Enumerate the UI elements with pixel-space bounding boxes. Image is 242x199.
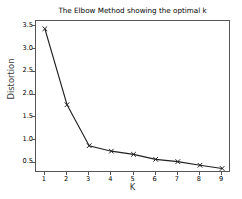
y-tick-mark (32, 162, 35, 163)
x-tick-mark (110, 172, 111, 175)
y-tick-mark (32, 48, 35, 49)
x-axis-label: K (35, 182, 230, 192)
x-tick-mark (88, 172, 89, 175)
y-tick-mark (32, 71, 35, 72)
y-tick-mark (32, 94, 35, 95)
y-tick-mark (32, 25, 35, 26)
x-tick-mark (155, 172, 156, 175)
x-tick-mark (44, 172, 45, 175)
x-tick-mark (133, 172, 134, 175)
x-tick-mark (199, 172, 200, 175)
y-tick-mark (32, 116, 35, 117)
chart-figure: The Elbow Method showing the optimal k 0… (0, 0, 242, 199)
x-axis-ticks: 123456789 (0, 0, 242, 199)
y-axis-label: Distortion (6, 39, 16, 119)
x-tick-mark (221, 172, 222, 175)
x-tick-mark (177, 172, 178, 175)
x-tick-mark (66, 172, 67, 175)
y-tick-mark (32, 139, 35, 140)
